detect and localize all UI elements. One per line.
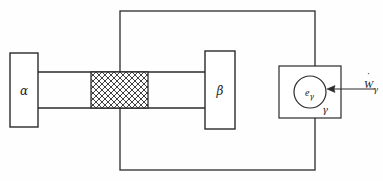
- diagram-canvas: α β eγ γ Wγ ̇: [0, 0, 383, 181]
- beta-block-label: β: [216, 84, 224, 98]
- work-input-label: Wγ: [364, 78, 378, 94]
- alpha-block-label: α: [20, 84, 28, 98]
- thermodynamic-schematic-figure: α β eγ γ Wγ ̇: [0, 0, 383, 181]
- hatched-resistor: [91, 72, 148, 108]
- gamma-block-label: γ: [322, 104, 328, 115]
- work-input-dot-accent: ̇: [367, 73, 370, 75]
